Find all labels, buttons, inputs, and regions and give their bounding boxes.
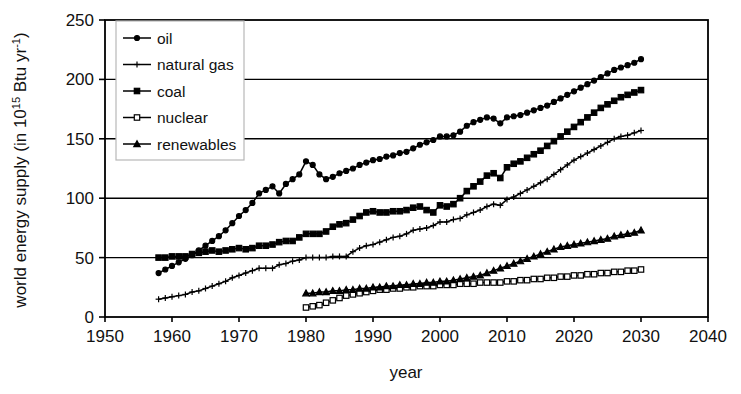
- series-point: [525, 110, 530, 115]
- series-point: [544, 248, 550, 254]
- series-point: [471, 120, 476, 125]
- series-point: [551, 138, 556, 143]
- series-point: [491, 116, 496, 121]
- series-point: [310, 231, 315, 236]
- series-point: [344, 220, 349, 225]
- series-point: [598, 105, 603, 110]
- series-point: [323, 229, 328, 234]
- series-point: [598, 270, 603, 275]
- series-point: [591, 272, 596, 277]
- series-point: [163, 255, 168, 260]
- legend-marker-filled-circle: [135, 36, 140, 41]
- series-point: [357, 213, 362, 218]
- series-point: [511, 260, 517, 266]
- series-point: [565, 129, 570, 134]
- series-point: [478, 117, 483, 122]
- series-point: [511, 279, 516, 284]
- series-point: [572, 89, 577, 94]
- y-axis-title: world energy supply (in 1015 Btu yr-1): [10, 32, 30, 308]
- series-point: [618, 232, 624, 238]
- series-point: [464, 188, 469, 193]
- series-point: [330, 288, 336, 294]
- series-point: [189, 251, 194, 256]
- series-point: [411, 205, 416, 210]
- y-tick-label-100: 100: [66, 189, 94, 208]
- series-point: [585, 115, 590, 120]
- series-point: [478, 280, 483, 285]
- series-point: [310, 290, 316, 296]
- x-tick-label-1990: 1990: [354, 327, 392, 346]
- series-point: [437, 203, 442, 208]
- series-point: [297, 172, 302, 177]
- series-point: [605, 71, 610, 76]
- series-point: [578, 119, 583, 124]
- series-point: [323, 289, 329, 295]
- series-point: [383, 283, 389, 289]
- series-point: [391, 153, 396, 158]
- series-point: [337, 295, 342, 300]
- series-point: [330, 298, 335, 303]
- series-point: [317, 302, 322, 307]
- series-point: [236, 245, 241, 250]
- series-point: [417, 281, 423, 287]
- y-tick-label-200: 200: [66, 70, 94, 89]
- y-tick-label-50: 50: [75, 249, 94, 268]
- series-point: [203, 243, 208, 248]
- series-point: [531, 152, 536, 157]
- series-point: [632, 268, 637, 273]
- x-tick-label-2010: 2010: [488, 327, 526, 346]
- series-point: [625, 63, 630, 68]
- series-point: [223, 228, 228, 233]
- series-point: [598, 75, 603, 80]
- series-point: [591, 110, 596, 115]
- series-point: [457, 276, 463, 282]
- series-point: [444, 134, 449, 139]
- series-point: [317, 172, 322, 177]
- x-tick-label-1950: 1950: [86, 327, 124, 346]
- series-point: [303, 290, 309, 296]
- series-point: [545, 103, 550, 108]
- series-point: [524, 155, 529, 160]
- series-point: [457, 196, 462, 201]
- series-point: [364, 210, 369, 215]
- series-point: [558, 134, 563, 139]
- series-point: [431, 137, 436, 142]
- series-point: [357, 162, 362, 167]
- series-point: [250, 245, 255, 250]
- series-point: [592, 78, 597, 83]
- series-point: [350, 166, 355, 171]
- series-point: [336, 288, 342, 294]
- series-point: [317, 231, 322, 236]
- series-point: [156, 255, 161, 260]
- series-point: [618, 269, 623, 274]
- series-point: [632, 90, 637, 95]
- series-point: [537, 251, 543, 257]
- series-point: [517, 258, 523, 264]
- series-point: [283, 181, 288, 186]
- series-point: [424, 207, 429, 212]
- legend-label: renewables: [157, 136, 237, 153]
- series-point: [444, 278, 450, 284]
- series-point: [444, 204, 449, 209]
- series-point: [477, 272, 483, 278]
- series-point: [163, 267, 168, 272]
- series-point: [397, 151, 402, 156]
- series-point: [591, 238, 597, 244]
- x-tick-label-1980: 1980: [287, 327, 325, 346]
- series-point: [585, 272, 590, 277]
- series-point: [571, 273, 576, 278]
- series-point: [585, 82, 590, 87]
- series-point: [377, 156, 382, 161]
- series-point: [223, 248, 228, 253]
- series-point: [410, 281, 416, 287]
- series-point: [612, 98, 617, 103]
- series-point: [557, 244, 563, 250]
- series-point: [263, 187, 268, 192]
- series-point: [538, 148, 543, 153]
- series-point: [558, 274, 563, 279]
- series-point: [277, 191, 282, 196]
- series-point: [578, 273, 583, 278]
- legend-marker-filled-square: [134, 88, 139, 93]
- series-point: [564, 243, 570, 249]
- x-tick-label-2030: 2030: [622, 327, 660, 346]
